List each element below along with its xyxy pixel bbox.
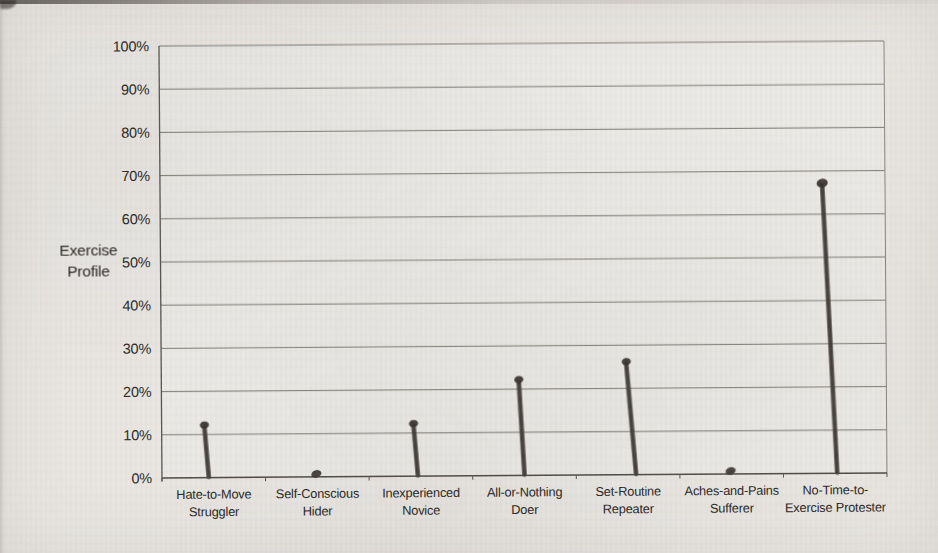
- plot-area: 0%10%20%30%40%50%60%70%80%90%100%Hate-to…: [0, 0, 938, 553]
- exercise-profile-bar-chart: Exercise Profile 0%10%20%30%40%50%60%70%…: [0, 0, 938, 553]
- x-category-label-line: Set-Routine: [595, 484, 661, 499]
- y-tick-label: 10%: [123, 427, 152, 443]
- x-category-label-line: Inexperienced: [382, 485, 460, 501]
- x-category-label-line: Exercise Protester: [785, 499, 887, 515]
- x-category-label-line: Self-Conscious: [276, 486, 359, 502]
- y-tick-label: 50%: [122, 254, 151, 270]
- x-category-label-line: Hider: [303, 503, 334, 518]
- x-category-label-line: Novice: [402, 503, 440, 518]
- y-tick-label: 80%: [121, 125, 150, 141]
- x-category-label-line: Doer: [511, 502, 539, 517]
- y-tick-label: 30%: [123, 341, 152, 357]
- x-category-label-line: All-or-Nothing: [487, 484, 563, 500]
- y-tick-label: 40%: [122, 297, 151, 313]
- y-tick-labels: 0%10%20%30%40%50%60%70%80%90%100%: [113, 38, 153, 486]
- x-category-label-line: Aches-and-Pains: [684, 483, 779, 499]
- x-category-labels: Hate-to-MoveStrugglerSelf-ConsciousHider…: [176, 482, 887, 519]
- y-tick-label: 70%: [121, 168, 150, 184]
- x-category-label-line: Hate-to-Move: [176, 486, 251, 502]
- x-category-label-line: Sufferer: [710, 500, 755, 515]
- y-tick-label: 90%: [121, 81, 150, 97]
- x-category-label-line: No-Time-to-: [802, 482, 868, 497]
- scan-artifact-top-edge: [0, 0, 938, 4]
- x-category-label-line: Repeater: [603, 501, 655, 516]
- scanned-book-page: Exercise Profile 0%10%20%30%40%50%60%70%…: [0, 0, 938, 553]
- scan-artifact-left-edge: [0, 0, 5, 553]
- y-tick-label: 20%: [123, 384, 152, 400]
- y-tick-label: 0%: [131, 470, 152, 486]
- y-tick-label: 100%: [113, 38, 150, 54]
- x-category-label-line: Struggler: [189, 504, 240, 519]
- y-tick-label: 60%: [122, 211, 151, 227]
